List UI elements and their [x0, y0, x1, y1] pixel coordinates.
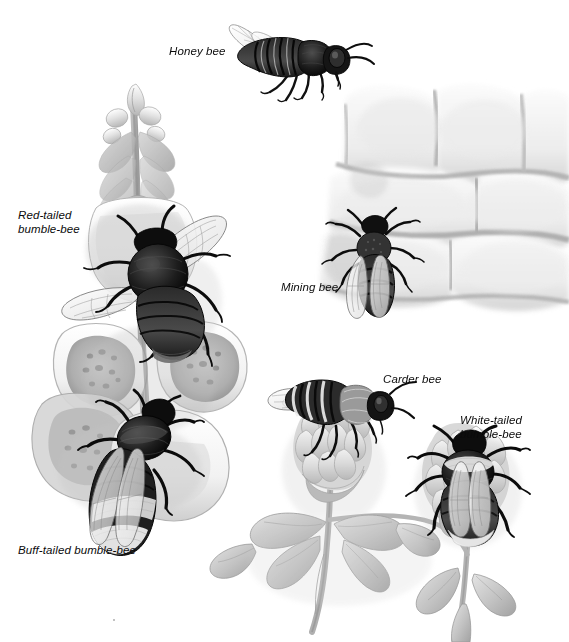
label-white-tailed-bumble-bee: White-tailed bumble-bee [460, 413, 522, 441]
stray-mark [113, 619, 115, 621]
label-honey-bee: Honey bee [169, 44, 226, 58]
label-red-tailed-bumble-bee: Red-tailed bumble-bee [18, 208, 80, 236]
label-buff-tailed-bumble-bee: Buff-tailed bumble-bee [18, 543, 136, 557]
illustration-plate: Honey bee Red-tailed bumble-bee Mining b… [0, 0, 569, 642]
label-carder-bee: Carder bee [383, 372, 442, 386]
label-mining-bee: Mining bee [281, 280, 338, 294]
